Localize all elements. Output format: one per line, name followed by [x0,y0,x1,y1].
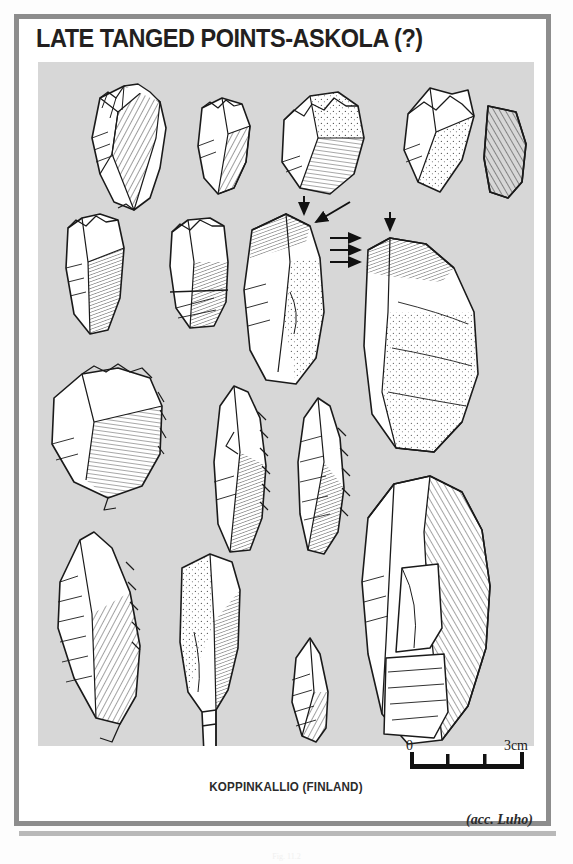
artifact-a2 [198,98,250,194]
a8-arrow-diagonal [316,202,350,222]
figure-page: LATE TANGED POINTS-ASKOLA (?) [0,0,573,864]
artifact-a6 [66,214,124,334]
figure-title: LATE TANGED POINTS-ASKOLA (?) [36,24,423,53]
artifact-a11 [214,386,270,552]
artifact-a3 [282,92,364,194]
figure-attribution: (acc. Luho) [466,812,533,828]
scale-bar: 0 3cm [406,740,528,772]
artifact-a13 [58,532,140,742]
artifact-a4 [404,88,474,192]
artifact-a16 [362,476,490,744]
artifact-a15 [292,638,328,742]
illustration-plate [38,62,534,746]
scale-max-label: 3cm [504,738,528,754]
figure-caption: KOPPINKALLIO (FINLAND) [73,779,500,794]
artifact-a7 [170,218,228,328]
artifact-a10 [52,364,166,510]
artifact-a5 [484,106,526,198]
scale-min-label: 0 [406,738,413,754]
artifact-a1 [92,84,166,210]
artifact-a9 [364,238,478,452]
artifact-a12 [298,398,350,554]
artifact-a14 [180,554,240,746]
footer-fragment: Fig. 11.2 [0,852,573,861]
artifact-a8 [244,214,324,384]
frame-shadow [19,831,556,836]
